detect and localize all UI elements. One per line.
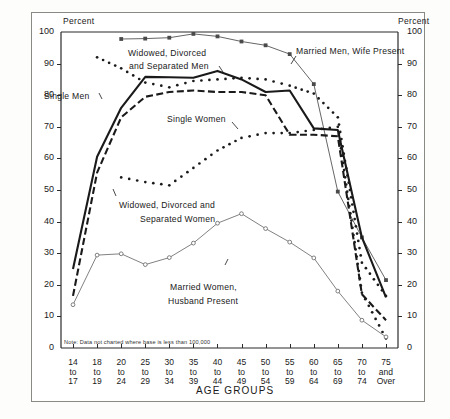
data-point-dot — [294, 86, 297, 89]
data-point-dot — [348, 205, 351, 208]
data-point-dot — [152, 182, 155, 185]
data-point-dot — [312, 92, 315, 95]
data-point-dot — [296, 131, 299, 134]
data-point-dot — [351, 226, 354, 229]
data-point-dot — [272, 132, 275, 135]
annotation-leader — [99, 93, 102, 99]
data-point-dot — [312, 129, 315, 132]
series-annotation: Single Men — [44, 91, 90, 101]
data-point-dot — [341, 154, 344, 157]
data-point-dot — [344, 176, 347, 179]
data-point-circle — [119, 252, 123, 256]
data-point-square — [192, 32, 196, 36]
data-point-dot — [102, 59, 105, 62]
series-1 — [73, 71, 386, 298]
data-point-dot — [373, 278, 376, 281]
data-point-dot — [345, 183, 348, 186]
series-4 — [120, 125, 388, 339]
data-point-dot — [340, 147, 343, 150]
data-point-dot — [342, 152, 345, 155]
data-point-dot — [356, 262, 359, 265]
series-annotation: Husband Present — [168, 296, 238, 306]
data-point-dot — [272, 80, 275, 83]
data-point-dot — [264, 132, 267, 135]
data-point-dot — [346, 174, 349, 177]
series-annotation: Single Women — [167, 114, 226, 124]
data-point-dot — [280, 132, 283, 135]
data-point-dot — [359, 284, 362, 287]
data-point-dot — [355, 255, 358, 258]
data-point-square — [119, 37, 123, 41]
data-point-dot — [210, 153, 213, 156]
data-point-dot — [385, 295, 388, 298]
data-point-dot — [364, 298, 367, 301]
data-point-circle — [143, 263, 147, 267]
data-point-dot — [336, 125, 339, 128]
data-point-dot — [350, 196, 353, 199]
data-point-dot — [96, 56, 99, 59]
data-point-dot — [168, 86, 171, 89]
data-point-dot — [180, 175, 183, 178]
data-point-circle — [95, 253, 99, 257]
data-point-dot — [338, 133, 341, 136]
data-point-dot — [342, 162, 345, 165]
data-point-dot — [300, 88, 303, 91]
data-point-dot — [369, 272, 372, 275]
data-point-circle — [167, 256, 171, 260]
data-point-dot — [351, 203, 354, 206]
data-point-dot — [346, 190, 349, 193]
data-point-dot — [120, 176, 123, 179]
data-point-dot — [361, 261, 364, 264]
data-point-dot — [336, 116, 339, 119]
data-point-dot — [353, 218, 356, 221]
data-point-dot — [240, 137, 243, 140]
annotation-leader — [113, 189, 116, 196]
data-point-dot — [216, 149, 219, 152]
data-point-square — [264, 43, 268, 47]
data-point-dot — [208, 79, 211, 82]
data-point-dot — [367, 304, 370, 307]
data-point-square — [288, 52, 292, 56]
data-point-circle — [240, 212, 244, 216]
data-point-square — [336, 190, 340, 194]
data-point-dot — [248, 77, 251, 80]
data-point-dot — [114, 64, 117, 67]
annotation-leader — [232, 122, 238, 129]
series-annotation: and Separated Men — [129, 61, 209, 71]
data-point-dot — [350, 219, 353, 222]
data-point-dot — [365, 267, 368, 270]
data-point-circle — [288, 240, 292, 244]
data-point-dot — [304, 130, 307, 133]
data-point-dot — [264, 78, 267, 81]
data-point-square — [167, 36, 171, 40]
series-5 — [71, 212, 388, 339]
data-point-dot — [192, 80, 195, 83]
data-point-dot — [136, 179, 139, 182]
data-point-dot — [228, 143, 231, 146]
data-point-dot — [120, 67, 123, 70]
data-point-dot — [132, 74, 135, 77]
data-point-dot — [352, 234, 355, 237]
data-point-dot — [234, 140, 237, 143]
data-point-circle — [264, 227, 268, 231]
data-point-dot — [108, 61, 111, 64]
data-point-circle — [216, 221, 220, 225]
data-point-dot — [347, 198, 350, 201]
series-line-solid — [73, 71, 386, 298]
data-point-dot — [332, 111, 335, 114]
data-point-dot — [168, 184, 171, 187]
data-point-dot — [144, 81, 147, 84]
data-point-dot — [339, 140, 342, 143]
data-point-dot — [371, 311, 374, 314]
data-point-circle — [312, 256, 316, 260]
data-point-dot — [280, 82, 283, 85]
data-point-dot — [361, 291, 364, 294]
data-point-dot — [349, 212, 352, 215]
data-point-dot — [240, 76, 243, 79]
series-annotation: Widowed, Divorced — [128, 48, 206, 58]
annotation-leader — [225, 259, 228, 265]
data-point-dot — [224, 78, 227, 81]
data-point-dot — [381, 289, 384, 292]
data-point-dot — [378, 324, 381, 327]
series-annotation: Widowed, Divorced and — [119, 200, 215, 210]
